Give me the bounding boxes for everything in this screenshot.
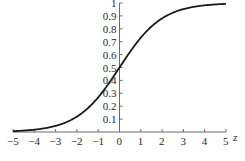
y-tick-label: 0.6: [103, 49, 117, 61]
y-tick-label: 0.9: [103, 10, 117, 22]
x-tick-label: −3: [50, 135, 62, 147]
x-tick-label: 1: [138, 135, 144, 147]
sigmoid-chart: 0.10.20.30.40.50.60.70.80.91 −5−4−3−2−10…: [0, 0, 245, 161]
y-tick-label: 0.7: [103, 36, 117, 48]
x-tick-label: −1: [92, 135, 104, 147]
x-axis: −5−4−3−2−1012345: [7, 129, 229, 147]
x-tick-label: 2: [159, 135, 165, 147]
x-tick-label: 0: [117, 135, 123, 147]
x-tick-label: −2: [71, 135, 83, 147]
x-tick-label: −4: [28, 135, 40, 147]
x-axis-title: z: [232, 131, 238, 143]
x-tick-label: 4: [202, 135, 208, 147]
y-tick-label: 0.2: [103, 100, 117, 112]
y-tick-label: 0.8: [103, 23, 117, 35]
y-tick-label: 1: [111, 0, 117, 9]
x-tick-label: 3: [180, 135, 186, 147]
y-tick-label: 0.5: [103, 62, 117, 74]
x-tick-label: −5: [7, 135, 19, 147]
x-tick-label: 5: [223, 135, 229, 147]
y-tick-label: 0.1: [103, 113, 117, 125]
